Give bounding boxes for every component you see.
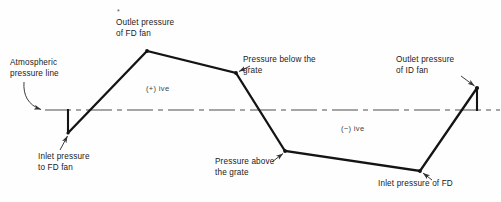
label-positive-region: (+) ive bbox=[146, 84, 169, 93]
label-outlet-pressure-fd-fan: Outlet pressure of FD fan bbox=[116, 18, 174, 39]
atmospheric-leader-arrow bbox=[24, 82, 41, 110]
label-pressure-below-grate: Pressure below the grate bbox=[243, 55, 316, 76]
label-pressure-above-grate: Pressure above the grate bbox=[215, 157, 274, 178]
outlet-id-leader-arrow bbox=[461, 76, 475, 86]
label-inlet-pressure-fd-fan: Inlet pressure to FD fan bbox=[38, 152, 90, 173]
label-inlet-pressure-of-fd: Inlet pressure of FD bbox=[378, 179, 453, 190]
asterisk-mark: * bbox=[117, 8, 120, 15]
label-negative-region: (−) ive bbox=[341, 124, 364, 133]
inlet-fd-leader-arrow bbox=[60, 136, 68, 150]
label-atmospheric-pressure-line: Atmospheric pressure line bbox=[10, 58, 59, 79]
pressure-profile-figure: Atmospheric pressure line Outlet pressur… bbox=[0, 0, 501, 202]
label-outlet-pressure-id-fan: Outlet pressure of ID fan bbox=[396, 55, 454, 76]
